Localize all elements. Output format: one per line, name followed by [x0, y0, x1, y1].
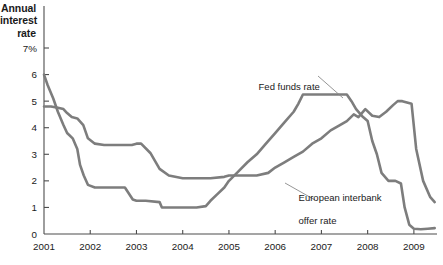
x-tick-label: 2004 [172, 241, 194, 252]
y-tick-label: 0 [32, 229, 38, 240]
y-tick-label: 3 [32, 149, 38, 160]
y-tick-label: 2 [32, 175, 37, 186]
annotation-euro-label-line-1: European interbank [299, 192, 382, 203]
x-tick-label: 2005 [218, 241, 240, 252]
interest-rate-chart: Annual interest rate 01234567% 200120022… [0, 0, 443, 265]
y-axis: 01234567% [23, 6, 49, 240]
x-tick-label: 2001 [33, 241, 55, 252]
y-tick-label: 4 [32, 122, 38, 133]
x-tick-label: 2002 [79, 241, 101, 252]
y-tick-label: 1 [32, 202, 37, 213]
y-tick-label: 5 [32, 96, 38, 107]
annotation-euro-label-line-2: offer rate [299, 215, 337, 226]
x-tick-label: 2008 [357, 241, 379, 252]
x-tick-label: 2003 [126, 241, 148, 252]
y-tick-label: 6 [32, 69, 38, 80]
x-tick-label: 2006 [264, 241, 286, 252]
annotation-fed-funds-rate: Fed funds rate [248, 69, 320, 104]
y-tick-label: 7% [23, 43, 37, 54]
x-tick-label: 2009 [403, 241, 425, 252]
x-tick-label: 2007 [311, 241, 333, 252]
annotation-fed-funds-label: Fed funds rate [259, 81, 320, 92]
annotation-european-interbank-rate: European interbank offer rate [288, 180, 381, 238]
